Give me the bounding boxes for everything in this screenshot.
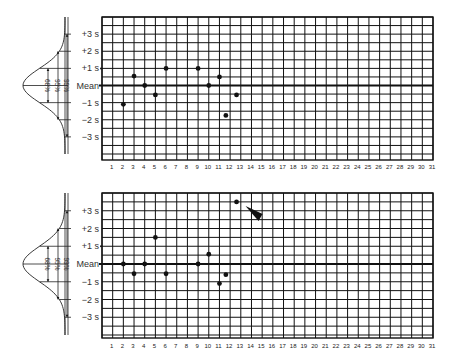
- normal-distribution-curve: 68%95%99%: [23, 193, 71, 335]
- grid: [102, 17, 433, 160]
- sd-level-label: +3 s: [82, 206, 100, 216]
- sd-level-label: Mean: [76, 81, 99, 91]
- data-points: [121, 66, 239, 118]
- x-tick-label: 9: [195, 343, 199, 349]
- x-tick-label: 25: [365, 343, 372, 349]
- x-tick-label: 24: [354, 343, 361, 349]
- x-tick-label: 31: [429, 164, 436, 170]
- percent-label: 99%: [63, 79, 70, 92]
- grid-frame: [102, 193, 433, 338]
- x-tick-label: 24: [354, 164, 361, 170]
- data-point: [223, 113, 228, 118]
- percent-label: 68%: [44, 79, 51, 92]
- x-tick-label: 6: [163, 343, 167, 349]
- x-tick-label: 23: [343, 164, 350, 170]
- data-point: [142, 262, 147, 267]
- percent-label: 99%: [63, 257, 70, 270]
- sd-level-label: −2 s: [82, 295, 100, 305]
- levey-jennings-figure: 1234567891011121314151617181920212223242…: [0, 0, 456, 357]
- x-tick-label: 26: [375, 164, 382, 170]
- data-point: [164, 66, 169, 71]
- x-tick-label: 15: [258, 164, 265, 170]
- data-point: [132, 74, 137, 79]
- data-point: [223, 272, 228, 277]
- x-tick-label: 19: [301, 343, 308, 349]
- x-tick-label: 20: [311, 164, 318, 170]
- percent-label: 95%: [54, 79, 61, 92]
- x-tick-label: 25: [365, 164, 372, 170]
- x-tick-label: 11: [215, 343, 222, 349]
- x-tick-label: 10: [204, 164, 211, 170]
- x-tick-label: 7: [174, 343, 178, 349]
- y-axis-labels: +3 s+2 s+1 sMean−1 s−2 s−3 s: [76, 29, 102, 142]
- x-tick-label: 5: [153, 164, 157, 170]
- x-tick-label: 16: [268, 343, 275, 349]
- x-tick-label: 8: [185, 164, 189, 170]
- x-tick-label: 27: [386, 164, 393, 170]
- x-tick-label: 9: [195, 164, 199, 170]
- data-point: [196, 262, 201, 267]
- data-point: [153, 235, 158, 240]
- data-point: [164, 271, 169, 276]
- data-point: [132, 271, 137, 276]
- x-tick-label: 28: [397, 164, 404, 170]
- x-tick-label: 29: [407, 343, 414, 349]
- data-point: [234, 93, 239, 98]
- x-tick-label: 21: [322, 343, 329, 349]
- upper-control-chart: 1234567891011121314151617181920212223242…: [23, 17, 436, 170]
- data-point: [121, 262, 126, 267]
- y-axis-labels: +3 s+2 s+1 sMean−1 s−2 s−3 s: [76, 206, 102, 323]
- x-tick-label: 7: [174, 164, 178, 170]
- sd-level-label: −3 s: [82, 132, 100, 142]
- x-tick-label: 21: [322, 164, 329, 170]
- x-tick-label: 28: [397, 343, 404, 349]
- x-tick-label: 12: [226, 343, 233, 349]
- data-point: [142, 83, 147, 88]
- data-point: [234, 199, 239, 204]
- arrowhead-icon: [246, 206, 263, 221]
- x-tick-label: 2: [121, 164, 125, 170]
- x-tick-label: 18: [290, 164, 297, 170]
- x-tick-label: 3: [131, 164, 135, 170]
- x-tick-label: 31: [429, 343, 436, 349]
- sd-level-label: −1 s: [82, 277, 100, 287]
- sd-level-label: +1 s: [82, 241, 100, 251]
- x-tick-label: 1: [110, 343, 114, 349]
- x-tick-label: 4: [142, 343, 146, 349]
- x-tick-label: 19: [301, 164, 308, 170]
- x-tick-label: 11: [215, 164, 222, 170]
- x-tick-label: 4: [142, 164, 146, 170]
- data-point: [121, 102, 126, 107]
- grid-frame: [102, 17, 433, 160]
- x-tick-label: 17: [279, 343, 286, 349]
- data-point: [196, 66, 201, 71]
- x-tick-label: 14: [247, 164, 254, 170]
- x-tick-label: 18: [290, 343, 297, 349]
- sd-level-label: Mean: [76, 259, 99, 269]
- x-tick-label: 6: [163, 164, 167, 170]
- x-tick-label: 22: [333, 164, 340, 170]
- x-tick-label: 30: [418, 164, 425, 170]
- normal-distribution-curve: 68%95%99%: [23, 17, 71, 154]
- sd-level-label: +2 s: [82, 224, 100, 234]
- x-tick-label: 27: [386, 343, 393, 349]
- x-tick-label: 8: [185, 343, 189, 349]
- sd-level-label: −2 s: [82, 115, 100, 125]
- sd-level-label: −1 s: [82, 98, 100, 108]
- data-point: [217, 75, 222, 80]
- x-tick-label: 12: [226, 164, 233, 170]
- x-tick-label: 26: [375, 343, 382, 349]
- x-tick-label: 30: [418, 343, 425, 349]
- x-tick-label: 20: [311, 343, 318, 349]
- x-tick-label: 16: [268, 164, 275, 170]
- x-tick-label: 23: [343, 343, 350, 349]
- x-tick-label: 10: [204, 343, 211, 349]
- grid: [102, 193, 433, 338]
- sd-level-label: +1 s: [82, 63, 100, 73]
- x-tick-label: 22: [333, 343, 340, 349]
- x-tick-label: 5: [153, 343, 157, 349]
- data-point: [153, 93, 158, 98]
- data-point: [206, 252, 211, 257]
- data-point: [217, 281, 222, 286]
- x-tick-label: 13: [236, 164, 243, 170]
